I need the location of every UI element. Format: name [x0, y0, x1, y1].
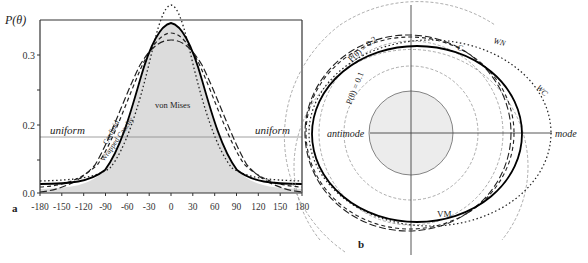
- svg-text:-150: -150: [53, 202, 71, 212]
- svg-text:150: 150: [273, 202, 288, 212]
- svg-text:180: 180: [295, 202, 310, 212]
- antimode-label: antimode: [327, 128, 365, 139]
- svg-text:-90: -90: [99, 202, 112, 212]
- panel-b-label: b: [358, 238, 364, 250]
- svg-text:60: 60: [210, 202, 220, 212]
- svg-text:120: 120: [251, 202, 266, 212]
- von-mises-label: von Mises: [155, 100, 190, 110]
- svg-text:-180: -180: [31, 202, 49, 212]
- p-0.1-label: P(θ) = 0.1: [344, 70, 366, 105]
- ref-circle-outer-top: [340, 2, 495, 25]
- c-label: C: [457, 43, 464, 53]
- y-tick-0.2: 0.2: [23, 120, 36, 131]
- wn-label: WN: [492, 36, 507, 48]
- vm-label: VM: [437, 209, 452, 219]
- svg-text:30: 30: [188, 202, 198, 212]
- y-tick-0.0: 0.0: [23, 188, 36, 199]
- svg-text:-30: -30: [143, 202, 156, 212]
- y-tick-0.3: 0.3: [23, 50, 36, 61]
- svg-text:-120: -120: [75, 202, 93, 212]
- svg-text:0: 0: [169, 202, 174, 212]
- x-tick-labels: -180 -150 -120 -90 -60 -30 0 30 60 90 12…: [31, 202, 309, 212]
- uniform-label-left: uniform: [50, 124, 85, 136]
- panel-b: antimode mode P(θ) = 0.1 P(θ) = 0.2 VM W…: [284, 2, 577, 255]
- mode-label: mode: [555, 128, 577, 139]
- panel-a: 0.3 0.2 0.0 P(θ) -180 -150 -120 -90 -: [4, 5, 309, 214]
- y-tick-labels: 0.3 0.2 0.0: [23, 50, 36, 199]
- panel-a-label: a: [12, 202, 18, 214]
- wc-label: WC: [535, 83, 550, 98]
- figure: 0.3 0.2 0.0 P(θ) -180 -150 -120 -90 -: [0, 0, 588, 263]
- y-axis-label: P(θ): [4, 13, 26, 27]
- svg-text:-60: -60: [121, 202, 134, 212]
- svg-text:90: 90: [232, 202, 242, 212]
